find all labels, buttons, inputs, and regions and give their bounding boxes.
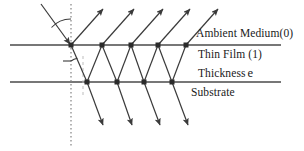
transmitted-ray-2 — [117, 82, 132, 125]
transmitted-rays — [87, 82, 188, 125]
incident-ray — [41, 4, 70, 44]
transmitted-ray-1 — [87, 82, 103, 125]
thin-film-label: Thin Film (1) — [198, 48, 262, 60]
ambient-medium-label: Ambient Medium(0) — [196, 27, 293, 39]
reflected-ray-2 — [102, 9, 134, 45]
internal-rays — [71, 45, 186, 82]
top-node-1 — [69, 43, 74, 48]
internal-down-3 — [131, 45, 144, 82]
bottom-node-4 — [170, 80, 175, 85]
bottom-node-1 — [85, 80, 90, 85]
top-node-5 — [184, 43, 189, 48]
bottom-node-3 — [142, 80, 147, 85]
substrate-label: Substrate — [191, 86, 235, 98]
internal-up-4 — [172, 45, 186, 82]
thin-film-diagram: Ambient Medium(0) Thin Film (1) Thicknes… — [0, 0, 304, 151]
internal-up-1 — [87, 45, 102, 82]
thickness-label-text: Thickness — [198, 67, 246, 79]
reflected-ray-3 — [131, 9, 163, 45]
bottom-node-2 — [115, 80, 120, 85]
internal-down-1 — [71, 45, 87, 82]
ray-diagram-svg — [0, 0, 304, 151]
internal-up-2 — [117, 45, 131, 82]
top-node-2 — [100, 43, 105, 48]
thickness-symbol: e — [246, 66, 254, 80]
transmitted-ray-3 — [144, 82, 160, 125]
reflected-ray-1 — [71, 9, 103, 45]
top-node-4 — [156, 43, 161, 48]
top-node-3 — [129, 43, 134, 48]
transmitted-ray-4 — [172, 82, 188, 125]
internal-down-2 — [102, 45, 117, 82]
internal-up-3 — [144, 45, 158, 82]
reflected-ray-4 — [158, 9, 190, 45]
internal-down-4 — [158, 45, 172, 82]
thickness-label: Thicknesse — [198, 66, 253, 81]
